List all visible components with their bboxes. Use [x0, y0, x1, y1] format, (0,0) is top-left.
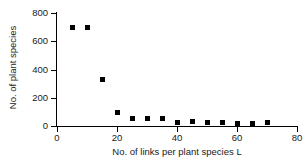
- data-point-marker: [85, 25, 90, 30]
- y-axis-tick-label: 400: [18, 65, 48, 75]
- y-axis-tick-label-text: 400: [32, 65, 48, 75]
- x-axis-tick-label: 20: [102, 133, 132, 143]
- data-points-layer: [57, 13, 297, 126]
- x-axis-tick-label: 60: [222, 133, 252, 143]
- x-axis-tick-label: 40: [162, 133, 192, 143]
- x-axis-title: No. of links per plant species L: [57, 146, 297, 157]
- y-axis-tick-label: 800: [18, 8, 48, 18]
- data-point-marker: [250, 121, 255, 126]
- x-axis-tick-label: 0: [42, 133, 72, 143]
- data-point-marker: [70, 25, 75, 30]
- y-axis-tick-label-text: 800: [32, 8, 48, 18]
- data-point-marker: [265, 120, 270, 125]
- data-point-marker: [145, 116, 150, 121]
- data-point-marker: [160, 116, 165, 121]
- data-point-marker: [220, 120, 225, 125]
- y-axis-tick-label: 0: [18, 121, 48, 131]
- y-axis-tick: [51, 98, 56, 99]
- y-axis-tick-label-text: 200: [32, 93, 48, 103]
- data-point-marker: [130, 116, 135, 121]
- data-point-marker: [100, 77, 105, 82]
- data-point-marker: [190, 119, 195, 124]
- y-axis-tick: [51, 70, 56, 71]
- y-axis-tick: [51, 126, 56, 127]
- scatter-plot-figure: 0200400600800 020406080 No. of links per…: [0, 0, 307, 167]
- data-point-marker: [205, 120, 210, 125]
- data-point-marker: [175, 120, 180, 125]
- y-axis-tick-label-text: 0: [43, 121, 48, 131]
- y-axis-tick: [51, 13, 56, 14]
- data-point-marker: [115, 110, 120, 115]
- x-axis-tick-label: 80: [282, 133, 307, 143]
- y-axis-tick: [51, 41, 56, 42]
- y-axis-title: No. of plant species: [7, 8, 18, 128]
- y-axis-tick-label: 600: [18, 36, 48, 46]
- data-point-marker: [235, 121, 240, 126]
- y-axis-tick-label: 200: [18, 93, 48, 103]
- y-axis-tick-label-text: 600: [32, 36, 48, 46]
